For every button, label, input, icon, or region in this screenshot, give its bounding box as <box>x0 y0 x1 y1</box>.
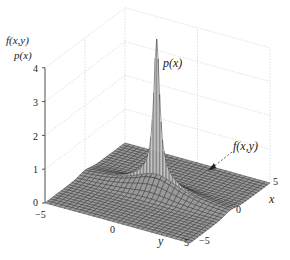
z-tick-4: 4 <box>33 64 38 74</box>
z-axis-label-fxy: f(x,y) <box>6 35 29 46</box>
surface-plot: f(x,y) p(x) 4 3 2 1 0 −5 0 5 y −5 0 5 x … <box>0 0 290 260</box>
y-tick-0: 0 <box>110 225 115 235</box>
plot-canvas <box>0 0 290 260</box>
peak-annotation: p(x) <box>163 57 182 69</box>
y-axis-name: y <box>158 235 163 247</box>
z-axis <box>42 68 45 203</box>
y-tick-5: 5 <box>184 238 189 248</box>
surface-annotation: f(x,y) <box>233 140 258 152</box>
z-tick-2: 2 <box>33 132 38 142</box>
x-tick-neg5: −5 <box>199 236 210 246</box>
x-tick-0: 0 <box>236 205 241 215</box>
z-axis-label-px: p(x) <box>14 50 32 61</box>
x-tick-5: 5 <box>273 177 278 187</box>
z-tick-0: 0 <box>33 198 38 208</box>
z-tick-3: 3 <box>33 98 38 108</box>
z-tick-1: 1 <box>33 165 38 175</box>
x-axis-name: x <box>269 193 274 205</box>
y-tick-neg5: −5 <box>35 210 46 220</box>
annotation-arrow <box>208 152 232 171</box>
